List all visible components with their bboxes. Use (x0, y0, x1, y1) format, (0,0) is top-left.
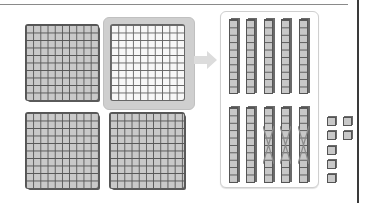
hundred-flat-4 (110, 113, 184, 188)
cross-out-icon (298, 126, 309, 164)
hundred-flat-2-selected (111, 25, 184, 100)
ones-unit (343, 117, 352, 126)
tens-rod-crossed (281, 107, 290, 183)
ones-unit (327, 174, 336, 183)
ones-unit (327, 146, 336, 155)
cross-out-icon (263, 126, 274, 164)
tens-rod (246, 19, 255, 94)
top-divider (0, 4, 348, 5)
ones-unit (327, 131, 336, 140)
tens-rod (281, 19, 290, 94)
cross-out-icon (280, 126, 291, 164)
hundred-flat-1 (26, 25, 98, 100)
tens-rod (246, 107, 255, 183)
ones-unit (343, 131, 352, 140)
hundred-flat-3 (26, 113, 98, 188)
tens-rod (229, 19, 238, 94)
ones-unit (327, 117, 336, 126)
tens-rod-crossed (264, 107, 273, 183)
tens-rod-crossed (299, 107, 308, 183)
right-arrow-icon (194, 50, 218, 70)
right-divider (357, 0, 359, 203)
ones-unit (327, 160, 336, 169)
tens-rod (264, 19, 273, 94)
tens-rod (299, 19, 308, 94)
tens-rod (229, 107, 238, 183)
